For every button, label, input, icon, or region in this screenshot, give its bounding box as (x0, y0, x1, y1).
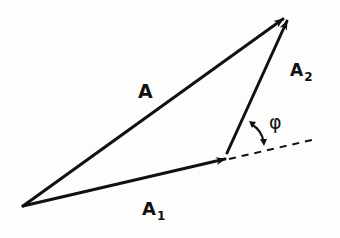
label-a1-subscript: 1 (157, 209, 165, 223)
label-a1: A1 (142, 200, 165, 218)
label-a1-text: A (142, 198, 156, 219)
label-a: A (138, 82, 153, 101)
reference-dashed-line (229, 139, 316, 159)
label-phi: φ (269, 113, 282, 132)
vector-a2-arrow (227, 21, 287, 153)
label-a2: A2 (290, 62, 313, 79)
angle-arc-arrowhead-bottom (260, 139, 267, 146)
label-a2-subscript: 2 (304, 70, 312, 84)
vector-drawing (0, 0, 340, 238)
phasor-diagram: A A2 A1 φ (0, 0, 340, 238)
label-a-text: A (138, 80, 153, 102)
label-phi-text: φ (269, 111, 282, 133)
label-a2-text: A (290, 60, 303, 80)
